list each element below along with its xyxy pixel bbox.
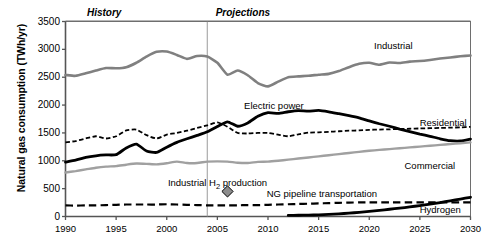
residential-label: Residential: [420, 117, 467, 128]
industrial-h2-production-label: Industrial H2 production: [168, 177, 267, 191]
series-line-electric-power: [66, 110, 471, 162]
plot-area: [0, 0, 490, 242]
projections: Projections: [216, 7, 270, 18]
natural-gas-consumption-chart: Natural gas consumption (TWh/yr) 0500100…: [0, 0, 490, 242]
series-line-ng-pipeline-transportation: [66, 202, 471, 205]
electric-power-label: Electric power: [244, 100, 304, 111]
hydrogen-label: Hydrogen: [420, 204, 461, 215]
commercial-label: Commercial: [405, 160, 456, 171]
history: History: [87, 7, 121, 18]
series-line-industrial: [66, 51, 471, 86]
industrial-label: Industrial: [374, 40, 413, 51]
ng-pipeline-transportation-label: NG pipeline transportation: [267, 188, 377, 199]
